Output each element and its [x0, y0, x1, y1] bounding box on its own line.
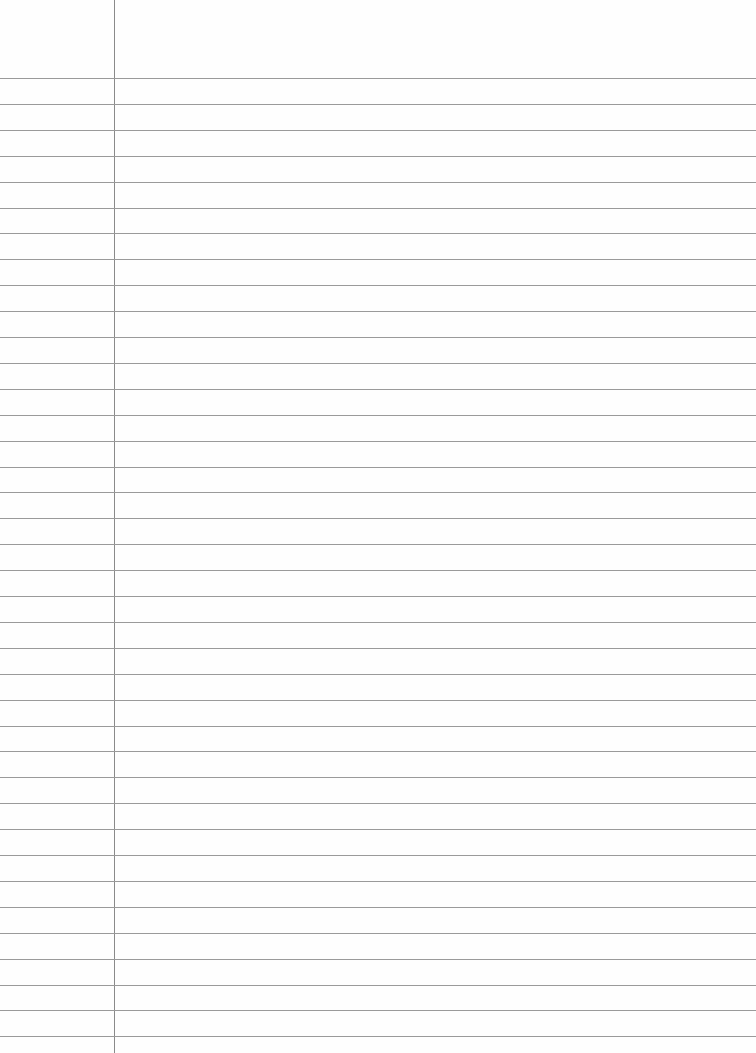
- ruled-line: [0, 674, 756, 675]
- margin-line: [114, 0, 115, 1053]
- ruled-line: [0, 648, 756, 649]
- ruled-line: [0, 130, 756, 131]
- ruled-line: [0, 389, 756, 390]
- ruled-line: [0, 933, 756, 934]
- ruled-line: [0, 337, 756, 338]
- ruled-line: [0, 518, 756, 519]
- ruled-line: [0, 208, 756, 209]
- ruled-line: [0, 751, 756, 752]
- ruled-line: [0, 855, 756, 856]
- ruled-line: [0, 959, 756, 960]
- ruled-line: [0, 622, 756, 623]
- ruled-line: [0, 700, 756, 701]
- ruled-line: [0, 285, 756, 286]
- ruled-line: [0, 259, 756, 260]
- ruled-line: [0, 829, 756, 830]
- ruled-line: [0, 726, 756, 727]
- ruled-line: [0, 415, 756, 416]
- ruled-line: [0, 441, 756, 442]
- ruled-line: [0, 492, 756, 493]
- ruled-line: [0, 777, 756, 778]
- ruled-line: [0, 156, 756, 157]
- ruled-line: [0, 78, 756, 79]
- ruled-line: [0, 363, 756, 364]
- ruled-line: [0, 1010, 756, 1011]
- ruled-line: [0, 544, 756, 545]
- ruled-line: [0, 985, 756, 986]
- ruled-line: [0, 311, 756, 312]
- ruled-line: [0, 1036, 756, 1037]
- ruled-line: [0, 104, 756, 105]
- ruled-line: [0, 233, 756, 234]
- ruled-line: [0, 596, 756, 597]
- lined-paper-page: [0, 0, 756, 1053]
- ruled-line: [0, 881, 756, 882]
- ruled-line: [0, 803, 756, 804]
- ruled-line: [0, 467, 756, 468]
- ruled-line: [0, 570, 756, 571]
- ruled-line: [0, 182, 756, 183]
- ruled-line: [0, 907, 756, 908]
